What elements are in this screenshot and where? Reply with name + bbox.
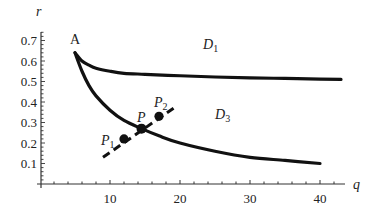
y-tick-label: 0.4 [21, 95, 38, 110]
y-tick-label: 0.2 [21, 136, 37, 151]
point-p2-label: P2 [153, 95, 168, 112]
x-tick-label: 40 [314, 191, 327, 206]
chart-svg: 102030400.10.20.30.40.50.60.7 q r A D1 D… [0, 0, 380, 218]
x-axis-label: q [353, 177, 360, 192]
y-tick-label: 0.3 [21, 115, 37, 130]
y-tick-label: 0.7 [21, 33, 38, 48]
x-tick-label: 20 [174, 191, 187, 206]
point-p-marker [137, 124, 147, 134]
x-tick-label: 30 [244, 191, 257, 206]
point-p2-marker [154, 112, 163, 121]
chart: 102030400.10.20.30.40.50.60.7 q r A D1 D… [0, 0, 380, 218]
point-p1-marker [119, 134, 128, 143]
ticks: 102030400.10.20.30.40.50.60.7 [21, 32, 334, 206]
axes [37, 32, 345, 188]
y-tick-label: 0.6 [21, 54, 38, 69]
y-tick-label: 0.1 [21, 156, 37, 171]
region-d1-label: D1 [202, 37, 218, 54]
point-a-label: A [70, 32, 81, 47]
y-tick-label: 0.5 [21, 74, 37, 89]
series [75, 53, 341, 164]
y-axis-label: r [36, 4, 42, 19]
region-d3-label: D3 [214, 107, 230, 124]
upper-curve [75, 53, 341, 80]
x-tick-label: 10 [104, 191, 117, 206]
point-p1-label: P1 [100, 133, 115, 150]
point-p-label: P [136, 110, 146, 125]
